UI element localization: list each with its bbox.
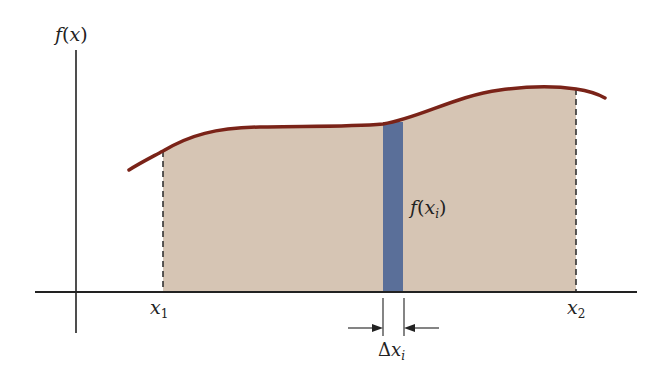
y-label-var: x [69,23,80,45]
x1-label: x1 [150,298,168,320]
x2-sub: 2 [578,307,586,321]
riemann-strip [383,122,403,292]
x2-label: x2 [567,298,585,320]
delta-right-arrowhead-icon [404,324,415,332]
strip-var: x [424,196,435,218]
diagram-canvas [0,0,672,379]
x1-base: x [150,296,161,318]
strip-width-label: Δxi [378,341,405,362]
y-label-f: f [55,23,62,45]
strip-height-label: f(xi) [410,198,446,220]
y-axis-label: f(x) [55,25,88,44]
y-label-close: ) [80,23,87,45]
strip-close: ) [439,196,446,218]
x1-sub: 1 [161,307,169,321]
x2-base: x [567,296,578,318]
delta-symbol: Δ [378,339,391,360]
strip-f: f [410,196,417,218]
area-under-curve [163,87,576,292]
delta-var: x [391,339,401,360]
delta-sub: i [401,349,405,363]
delta-left-arrowhead-icon [372,324,383,332]
